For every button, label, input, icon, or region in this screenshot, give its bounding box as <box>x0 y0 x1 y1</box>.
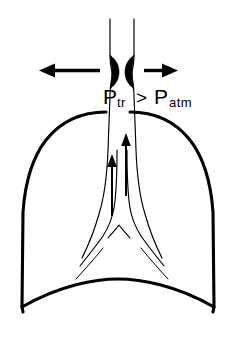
p-atm-subscript: atm <box>169 95 192 110</box>
figure-canvas: P tr > P atm <box>0 0 236 345</box>
diagram-background <box>0 0 236 345</box>
p-tr-symbol: P <box>103 85 118 108</box>
lung-bottom-left-corner <box>22 307 23 312</box>
lung-pressure-diagram: P tr > P atm <box>0 0 236 345</box>
p-atm-symbol: P <box>154 85 169 108</box>
lung-bottom-right-corner <box>213 307 214 312</box>
greater-than-sign: > <box>136 87 147 108</box>
p-tr-subscript: tr <box>117 95 126 110</box>
